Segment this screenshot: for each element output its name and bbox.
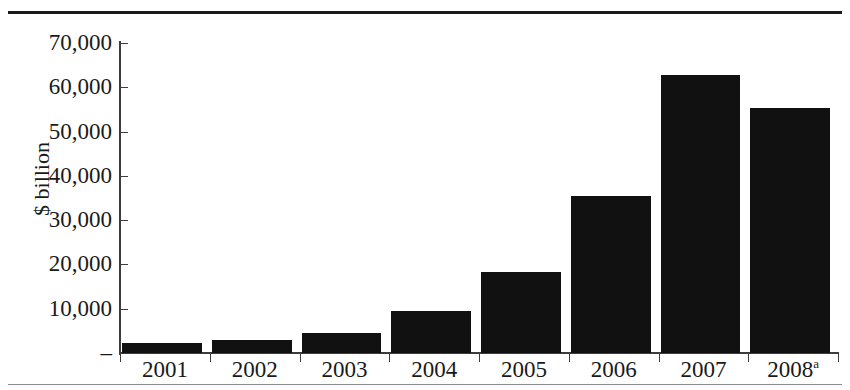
y-tick-0 bbox=[121, 353, 128, 354]
x-label-footnote-marker: a bbox=[813, 356, 819, 371]
y-tick-label-10000: 10,000 bbox=[0, 297, 112, 320]
bar-2008 bbox=[750, 108, 830, 353]
bar-2003 bbox=[302, 333, 382, 353]
y-tick-label-70000: 70,000 bbox=[0, 31, 112, 54]
bar-2004 bbox=[391, 311, 471, 353]
x-tick bbox=[838, 354, 839, 362]
bar-2001 bbox=[122, 343, 202, 353]
y-tick-label-20000: 20,000 bbox=[0, 252, 112, 275]
bar-slot bbox=[120, 43, 210, 353]
bar-series bbox=[120, 43, 838, 353]
bar-slot bbox=[748, 43, 838, 353]
y-tick-label-0: – bbox=[0, 341, 112, 364]
bar-2005 bbox=[481, 272, 561, 353]
top-rule bbox=[8, 11, 842, 14]
x-axis-label-2007: 2007 bbox=[659, 358, 749, 381]
bottom-rule bbox=[8, 384, 842, 385]
bar-slot bbox=[210, 43, 300, 353]
bar-slot bbox=[659, 43, 749, 353]
bar-slot bbox=[389, 43, 479, 353]
bar-slot bbox=[569, 43, 659, 353]
x-axis-label-2008: 2008a bbox=[748, 358, 838, 381]
bar-2002 bbox=[212, 340, 292, 353]
bar-slot bbox=[300, 43, 390, 353]
y-tick-label-30000: 30,000 bbox=[0, 208, 112, 231]
x-axis-label-2001: 2001 bbox=[120, 358, 210, 381]
x-axis-label-2004: 2004 bbox=[389, 358, 479, 381]
y-tick-label-60000: 60,000 bbox=[0, 75, 112, 98]
y-tick-label-50000: 50,000 bbox=[0, 120, 112, 143]
x-axis-label-2003: 2003 bbox=[300, 358, 390, 381]
y-tick-label-40000: 40,000 bbox=[0, 164, 112, 187]
x-axis-label-2006: 2006 bbox=[569, 358, 659, 381]
x-axis-label-2002: 2002 bbox=[210, 358, 300, 381]
x-axis-label-2005: 2005 bbox=[479, 358, 569, 381]
bar-chart-figure: $ billion –10,00020,00030,00040,00050,00… bbox=[0, 0, 850, 390]
bar-slot bbox=[479, 43, 569, 353]
bar-2007 bbox=[661, 75, 741, 353]
bar-2006 bbox=[571, 196, 651, 353]
